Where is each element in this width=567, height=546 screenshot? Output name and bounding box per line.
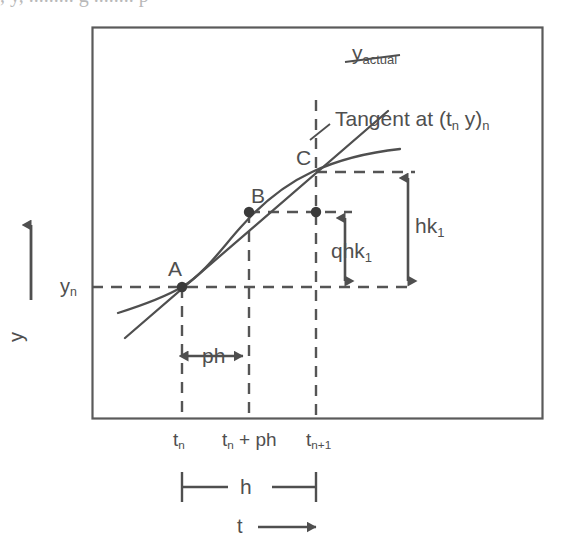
- figure-canvas: , y, ......... g ........ p: [0, 0, 567, 546]
- label-point-a: A: [168, 258, 182, 279]
- label-point-c: C: [296, 147, 311, 168]
- label-measure-qhk1: qhk1: [331, 240, 372, 261]
- leader-tangent: [310, 124, 330, 140]
- label-x-tick-tn1: tn+1: [306, 430, 331, 449]
- label-y-actual: yactual: [352, 42, 397, 63]
- diagram-svg: [0, 0, 567, 546]
- label-measure-hk1: hk1: [415, 215, 444, 236]
- plot-frame: [93, 28, 543, 419]
- point-d-marker: [311, 207, 321, 217]
- point-a-marker: [177, 282, 187, 292]
- label-measure-ph: ph: [202, 345, 225, 366]
- label-axis-t: t: [237, 516, 243, 536]
- label-x-tick-tn: tn: [173, 430, 185, 449]
- label-x-tick-tn-plus-ph: tn + ph: [222, 430, 277, 449]
- label-measure-h: h: [240, 476, 252, 497]
- label-tangent: Tangent at (tn y)n: [335, 108, 490, 129]
- label-y-tick-yn: yn: [60, 276, 77, 296]
- line-tangent: [125, 111, 388, 338]
- curve-y-actual: [118, 149, 400, 313]
- label-axis-y: y: [6, 332, 26, 342]
- label-point-b: B: [251, 185, 265, 206]
- point-b-marker: [244, 207, 254, 217]
